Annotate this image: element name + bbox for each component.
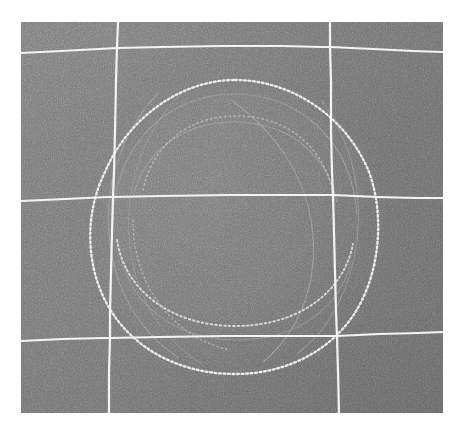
halftone-texture-overlay xyxy=(21,22,443,413)
grayscale-grid-sphere-scan xyxy=(21,22,443,413)
page-root xyxy=(0,0,461,439)
